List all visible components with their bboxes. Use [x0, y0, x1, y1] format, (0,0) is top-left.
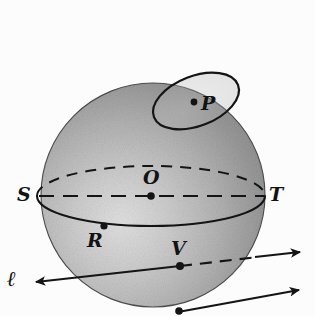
sphere-diagram: P O S T R V ℓ [0, 0, 315, 316]
diagram-canvas [0, 0, 315, 316]
dot-O [147, 192, 155, 200]
label-V: V [171, 239, 186, 258]
dot-V [176, 262, 184, 270]
label-T: T [269, 185, 283, 204]
label-R: R [87, 231, 103, 250]
label-line-l: ℓ [7, 268, 16, 289]
label-S: S [17, 185, 31, 204]
label-O: O [143, 168, 160, 187]
dot-P [191, 99, 198, 106]
label-P: P [201, 94, 215, 113]
line-l-right-tail [255, 252, 300, 257]
dot-lower-tangent [175, 307, 183, 315]
